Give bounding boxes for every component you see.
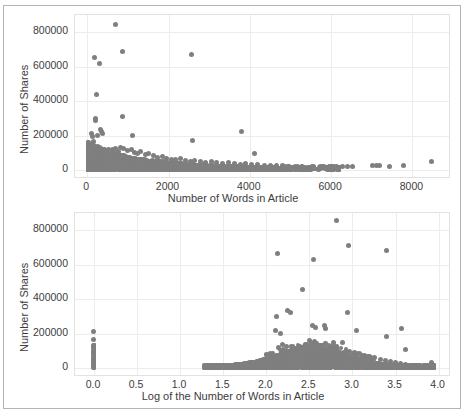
scatter-point: [401, 163, 406, 168]
scatter-point: [113, 22, 118, 27]
scatter-point: [416, 363, 420, 367]
scatter-point: [270, 354, 274, 358]
gridline-vertical: [250, 15, 251, 177]
scatter-point: [398, 365, 402, 369]
scatter-point: [164, 164, 168, 168]
gridline-horizontal: [75, 230, 449, 231]
scatter-point: [334, 346, 338, 350]
scatter-point: [145, 162, 149, 166]
gridline-vertical: [137, 213, 138, 375]
scatter-point: [384, 248, 389, 253]
scatter-point: [324, 356, 328, 360]
gridline-vertical: [266, 213, 267, 375]
scatter-point: [255, 168, 259, 172]
scatter-point: [371, 358, 375, 362]
scatter-point: [360, 365, 364, 369]
scatter-point: [205, 165, 209, 169]
gridline-vertical: [180, 213, 181, 375]
x-tick-label: 4000: [222, 181, 276, 192]
y-axis-label-top: Number of Shares: [18, 65, 30, 154]
gridline-horizontal: [75, 265, 449, 266]
x-axis-label-bottom: Log of the Number of Words in Article: [4, 390, 462, 402]
scatter-point: [193, 166, 197, 170]
scatter-point: [345, 310, 350, 315]
scatter-point: [350, 353, 354, 357]
scatter-point: [320, 366, 324, 370]
scatter-point: [280, 165, 284, 169]
gridline-horizontal: [75, 299, 449, 300]
scatter-point: [190, 138, 195, 143]
x-tick-label: 0: [59, 181, 113, 192]
gridline-horizontal: [75, 67, 449, 68]
scatter-point: [239, 363, 243, 367]
scatter-point: [307, 357, 311, 361]
scatter-point: [125, 166, 129, 170]
y-tick-label: 0: [10, 163, 68, 174]
scatter-point: [240, 165, 244, 169]
scatter-point: [278, 331, 283, 336]
y-tick-label: 800000: [10, 223, 68, 234]
scatter-point: [247, 165, 251, 169]
scatter-point: [350, 164, 355, 169]
scatter-point: [120, 114, 125, 119]
y-axis-label-bottom: Number of Shares: [18, 263, 30, 352]
scatter-point: [354, 328, 359, 333]
scatter-point: [317, 357, 321, 361]
scatter-point: [300, 287, 305, 292]
scatter-point: [141, 157, 145, 161]
scatter-point: [255, 360, 259, 364]
gridline-vertical: [223, 213, 224, 375]
scatter-point: [318, 165, 322, 169]
scatter-point: [97, 61, 102, 66]
scatter-point: [327, 164, 331, 168]
gridline-vertical: [169, 15, 170, 177]
x-tick-label: 4.0: [411, 379, 465, 390]
scatter-point: [325, 364, 329, 368]
scatter-point: [340, 340, 345, 345]
scatter-point: [249, 361, 253, 365]
x-tick-label: 2000: [141, 181, 195, 192]
scatter-point: [399, 326, 404, 331]
chart-shares-vs-words: 0200000400000600000800000 02000400060008…: [4, 6, 462, 206]
scatter-point: [210, 366, 214, 370]
scatter-point: [410, 364, 414, 368]
scatter-point: [301, 355, 305, 359]
plot-area-top: [74, 14, 450, 178]
scatter-point: [377, 163, 382, 168]
gridline-horizontal: [75, 101, 449, 102]
scatter-point: [309, 341, 313, 345]
gridline-horizontal: [75, 334, 449, 335]
scatter-point: [321, 346, 325, 350]
scatter-point: [176, 163, 180, 167]
scatter-point: [403, 347, 408, 352]
scatter-point: [91, 337, 96, 342]
scatter-point: [252, 151, 257, 156]
scatter-point: [308, 347, 312, 351]
scatter-point: [92, 55, 97, 60]
gridline-vertical: [331, 15, 332, 177]
scatter-point: [387, 363, 391, 367]
scatter-point: [301, 365, 305, 369]
scatter-point: [318, 343, 322, 347]
scatter-point: [297, 358, 301, 362]
scatter-point: [303, 342, 307, 346]
scatter-point: [239, 129, 244, 134]
scatter-point: [387, 164, 392, 169]
scatter-point: [92, 345, 97, 350]
gridline-vertical: [396, 213, 397, 375]
scatter-point: [323, 326, 328, 331]
scatter-point: [120, 160, 124, 164]
scatter-point: [189, 52, 194, 57]
gridline-horizontal: [75, 32, 449, 33]
scatter-point: [336, 167, 340, 171]
scatter-point: [130, 133, 135, 138]
scatter-point: [273, 365, 277, 369]
gridline-vertical: [412, 15, 413, 177]
scatter-point: [275, 251, 280, 256]
x-tick-label: 6000: [303, 181, 357, 192]
scatter-point: [361, 357, 365, 361]
scatter-point: [280, 350, 284, 354]
scatter-point: [346, 243, 351, 248]
scatter-point: [297, 344, 301, 348]
figure-frame: 0200000400000600000800000 02000400060008…: [3, 5, 461, 409]
